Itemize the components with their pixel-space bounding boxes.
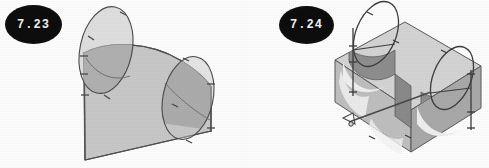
rod-pivot-point (349, 122, 353, 126)
figure-label-badge-7-24: 7.24 (279, 6, 334, 44)
figure-7-24: 7.24 (245, 0, 489, 168)
figure-label-badge-7-23: 7.23 (5, 5, 62, 44)
figure-plate: 7.23 (0, 0, 489, 168)
figure-7-23: 7.23 (0, 0, 245, 168)
